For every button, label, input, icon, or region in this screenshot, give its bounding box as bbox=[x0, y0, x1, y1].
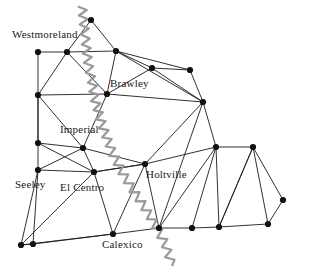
network-edge bbox=[216, 147, 219, 227]
network-edge bbox=[83, 148, 94, 172]
network-edge bbox=[219, 147, 253, 227]
network-node[interactable] bbox=[187, 67, 193, 73]
network-node[interactable] bbox=[265, 221, 271, 227]
network-node[interactable] bbox=[35, 140, 41, 146]
network-node[interactable] bbox=[142, 161, 148, 167]
network-edge bbox=[94, 172, 113, 234]
network-edge bbox=[192, 147, 216, 228]
network-node[interactable] bbox=[280, 197, 286, 203]
network-edge bbox=[67, 51, 116, 52]
network-node[interactable] bbox=[104, 91, 110, 97]
network-edge bbox=[116, 51, 203, 102]
network-edge bbox=[192, 227, 219, 228]
network-edge bbox=[159, 102, 203, 228]
network-edge bbox=[116, 51, 152, 68]
network-node[interactable] bbox=[156, 225, 162, 231]
network-edge bbox=[253, 147, 283, 200]
network-edge bbox=[159, 147, 216, 228]
network-edge bbox=[33, 234, 113, 244]
network-graph-svg bbox=[0, 0, 316, 274]
network-node[interactable] bbox=[113, 48, 119, 54]
network-node[interactable] bbox=[216, 224, 222, 230]
network-edge bbox=[38, 52, 67, 95]
network-node[interactable] bbox=[35, 167, 41, 173]
network-node[interactable] bbox=[91, 169, 97, 175]
network-edge bbox=[145, 102, 203, 164]
network-edge bbox=[38, 148, 83, 170]
network-node[interactable] bbox=[250, 144, 256, 150]
network-node[interactable] bbox=[64, 49, 70, 55]
network-node[interactable] bbox=[189, 225, 195, 231]
network-edge bbox=[38, 95, 83, 148]
network-edge bbox=[107, 51, 116, 94]
network-edge bbox=[38, 143, 83, 148]
network-node[interactable] bbox=[18, 242, 24, 248]
network-node[interactable] bbox=[110, 231, 116, 237]
network-edge bbox=[268, 200, 283, 224]
network-node[interactable] bbox=[35, 92, 41, 98]
network-edge bbox=[21, 172, 94, 245]
network-node[interactable] bbox=[88, 17, 94, 23]
network-edge bbox=[91, 20, 116, 51]
network-edge bbox=[253, 147, 268, 224]
network-edge bbox=[38, 170, 94, 172]
network-edge bbox=[219, 224, 268, 227]
network-node[interactable] bbox=[80, 145, 86, 151]
network-node[interactable] bbox=[149, 65, 155, 71]
network-node[interactable] bbox=[213, 144, 219, 150]
network-node[interactable] bbox=[200, 99, 206, 105]
imperial-valley-network-figure: WestmorelandBrawleyImperialHoltvilleSeel… bbox=[0, 0, 316, 274]
network-edge bbox=[152, 68, 203, 102]
network-edge bbox=[107, 68, 152, 94]
network-edge bbox=[203, 102, 216, 147]
network-edge bbox=[107, 94, 203, 102]
network-node[interactable] bbox=[30, 241, 36, 247]
network-node[interactable] bbox=[35, 49, 41, 55]
